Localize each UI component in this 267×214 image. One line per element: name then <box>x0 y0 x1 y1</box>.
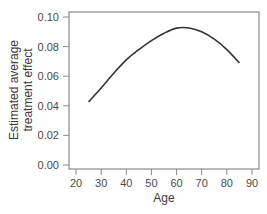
x-tick-label: 40 <box>120 177 132 189</box>
y-tick-label: 0.08 <box>38 41 59 53</box>
line-chart: 0.000.020.040.060.080.10 203040506070809… <box>0 0 267 214</box>
x-tick-label: 50 <box>145 177 157 189</box>
x-tick-label: 80 <box>221 177 233 189</box>
x-axis-title: Age <box>153 191 175 205</box>
x-tick-label: 90 <box>246 177 258 189</box>
x-axis: 2030405060708090 <box>70 169 258 189</box>
x-tick-label: 30 <box>95 177 107 189</box>
plot-frame <box>69 12 259 169</box>
treatment-effect-curve <box>89 27 240 101</box>
plot-border <box>69 12 259 169</box>
y-tick-label: 0.02 <box>38 129 59 141</box>
y-tick-label: 0.06 <box>38 70 59 82</box>
y-axis: 0.000.020.040.060.080.10 <box>38 11 69 171</box>
y-tick-label: 0.04 <box>38 100 59 112</box>
x-tick-label: 70 <box>196 177 208 189</box>
y-tick-label: 0.00 <box>38 159 59 171</box>
y-axis-title-line-1: Estimated average <box>7 40 21 140</box>
x-tick-label: 60 <box>170 177 182 189</box>
y-tick-label: 0.10 <box>38 11 59 23</box>
y-axis-title-line-2: treatment effect <box>21 48 35 132</box>
x-tick-label: 20 <box>70 177 82 189</box>
y-axis-title: Estimated average treatment effect <box>7 40 35 140</box>
